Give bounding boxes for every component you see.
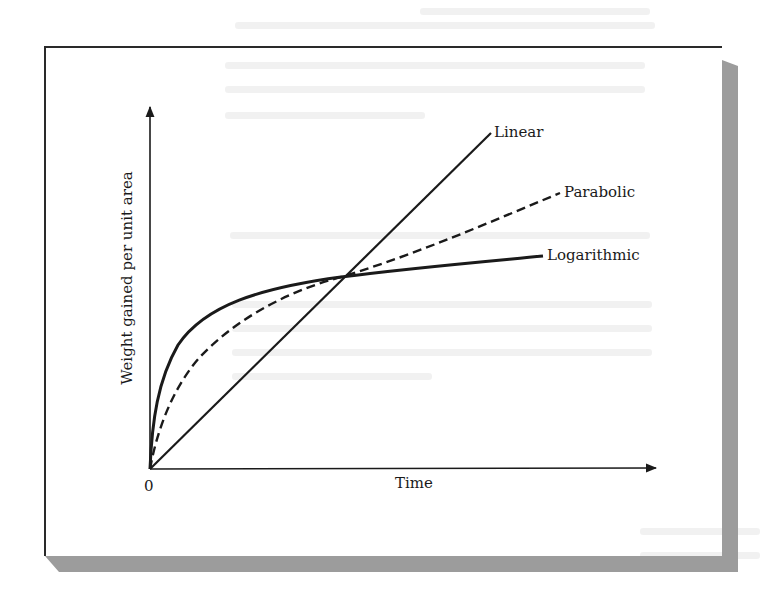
origin-label: 0 — [144, 477, 154, 495]
linear-curve — [150, 133, 491, 469]
parabolic-curve-label: Parabolic — [564, 183, 635, 201]
logarithmic-curve-label: Logarithmic — [547, 246, 640, 264]
oxidation-rate-chart — [0, 0, 770, 608]
x-axis-label: Time — [395, 474, 433, 492]
linear-curve-label: Linear — [494, 123, 543, 141]
parabolic-curve — [150, 193, 560, 469]
y-axis-label: Weight gained per unit area — [118, 171, 136, 384]
x-axis — [150, 468, 656, 469]
logarithmic-curve — [150, 256, 543, 469]
